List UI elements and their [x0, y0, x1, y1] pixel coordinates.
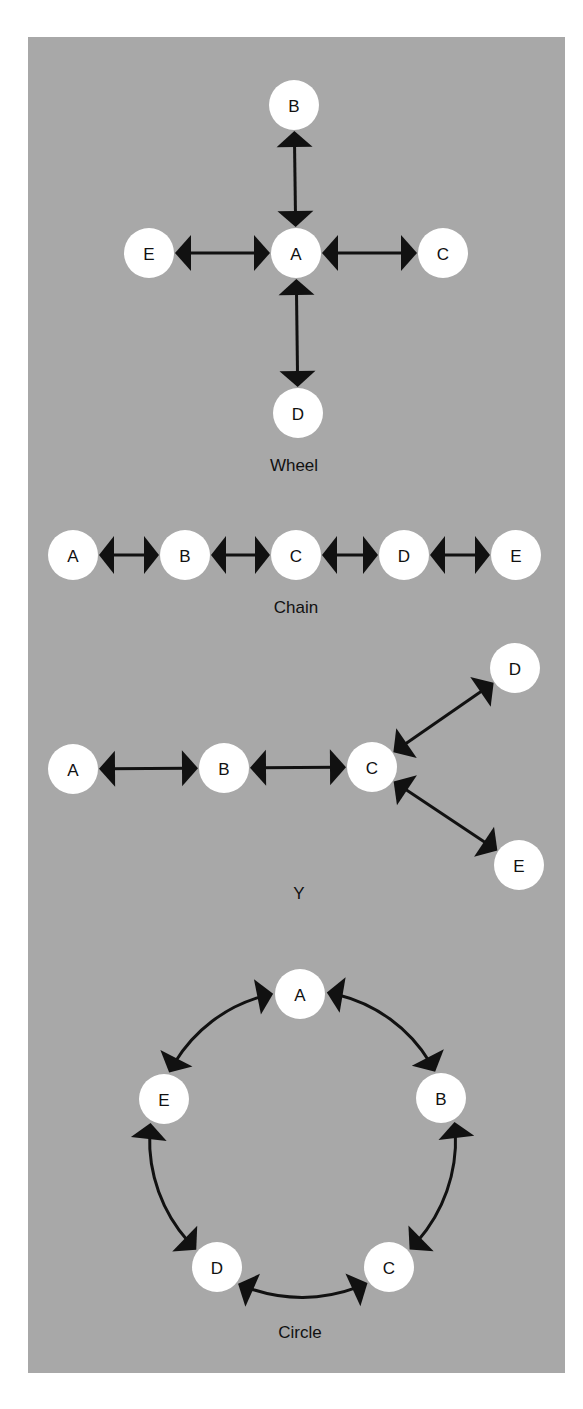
node-label: E	[510, 547, 521, 566]
edge-c-d	[322, 536, 378, 574]
arrowhead-icon	[474, 827, 497, 857]
arrowhead-icon	[322, 536, 337, 574]
node-a: A	[271, 228, 321, 278]
arrowhead-icon	[131, 1123, 167, 1141]
arrowhead-icon	[175, 235, 191, 271]
edge-a-d	[279, 279, 316, 387]
node-label: A	[294, 986, 306, 1005]
circle-network: ABCDE Circle	[131, 969, 474, 1342]
edge-a-b	[327, 977, 444, 1071]
arrowhead-icon	[439, 1122, 475, 1140]
node-b: B	[160, 530, 210, 580]
edge-arc	[417, 1133, 455, 1241]
edge-b-c	[408, 1122, 474, 1251]
edge-a-e	[175, 235, 270, 271]
arrowhead-icon	[430, 536, 445, 574]
arrowhead-icon	[211, 536, 226, 574]
arrowhead-icon	[277, 131, 313, 147]
arrowhead-icon	[99, 536, 114, 574]
edge-c-d	[238, 1273, 367, 1306]
node-label: D	[292, 405, 304, 424]
arrowhead-icon	[475, 536, 490, 574]
edge-arc	[175, 996, 263, 1062]
node-label: B	[435, 1090, 446, 1109]
communication-networks-diagram: ABCDE Wheel ABCDE Chain ABCDE Y ABCDE Ci…	[0, 0, 583, 1409]
edge-arc	[150, 1134, 189, 1241]
node-label: B	[179, 547, 190, 566]
edge-a-c	[322, 235, 417, 271]
edge-e-a	[160, 979, 273, 1072]
edge-a-b	[277, 131, 314, 227]
y-caption: Y	[293, 884, 304, 903]
node-c: C	[347, 742, 397, 792]
arrowhead-icon	[160, 1050, 192, 1072]
arrowhead-icon	[279, 371, 315, 387]
edge-b-c	[211, 536, 270, 574]
node-label: C	[437, 245, 449, 264]
node-a: A	[275, 969, 325, 1019]
edge-d-e	[430, 536, 490, 574]
node-label: C	[290, 547, 302, 566]
node-label: A	[290, 245, 302, 264]
node-label: E	[158, 1091, 169, 1110]
node-label: A	[67, 761, 79, 780]
arrowhead-icon	[279, 279, 315, 295]
y-network: ABCDE Y	[48, 643, 544, 903]
edge-line	[260, 767, 337, 768]
arrowhead-icon	[250, 750, 266, 786]
node-label: D	[509, 660, 521, 679]
arrowhead-icon	[412, 1049, 444, 1071]
node-c: C	[364, 1242, 414, 1292]
edge-line	[401, 688, 485, 746]
edge-c-d	[393, 677, 493, 758]
wheel-network: ABCDE Wheel	[124, 80, 468, 475]
arrowhead-icon	[322, 235, 338, 271]
node-label: C	[366, 759, 378, 778]
node-label: B	[288, 97, 299, 116]
node-d: D	[192, 1242, 242, 1292]
edge-line	[294, 141, 295, 218]
node-d: D	[379, 530, 429, 580]
node-c: C	[418, 228, 468, 278]
chain-network: ABCDE Chain	[48, 530, 541, 617]
edge-c-e	[394, 775, 498, 856]
arrowhead-icon	[255, 536, 270, 574]
node-e: E	[124, 228, 174, 278]
arrowhead-icon	[363, 536, 378, 574]
node-a: A	[48, 744, 98, 794]
edge-a-b	[99, 750, 198, 786]
arrowhead-icon	[277, 211, 313, 227]
wheel-caption: Wheel	[270, 456, 318, 475]
edge-line	[109, 768, 189, 769]
edge-line	[296, 289, 297, 378]
arrowhead-icon	[394, 775, 417, 805]
edge-line	[402, 787, 490, 846]
chain-caption: Chain	[274, 598, 318, 617]
node-e: E	[491, 530, 541, 580]
arrowhead-icon	[254, 235, 270, 271]
arrowhead-icon	[393, 728, 416, 758]
arrowhead-icon	[144, 536, 159, 574]
node-b: B	[269, 80, 319, 130]
arrowhead-icon	[99, 751, 115, 787]
arrowhead-icon	[401, 235, 417, 271]
node-d: D	[273, 388, 323, 438]
node-label: B	[218, 760, 229, 779]
arrowhead-icon	[182, 750, 198, 786]
edge-d-e	[131, 1123, 197, 1252]
arrowhead-icon	[330, 749, 346, 785]
arrowhead-icon	[470, 677, 493, 707]
edge-arc	[338, 995, 430, 1062]
circle-caption: Circle	[278, 1323, 321, 1342]
node-label: E	[513, 857, 524, 876]
node-b: B	[416, 1073, 466, 1123]
node-d: D	[490, 643, 540, 693]
edge-b-c	[250, 749, 346, 785]
node-c: C	[271, 530, 321, 580]
node-e: E	[139, 1074, 189, 1124]
node-a: A	[48, 530, 98, 580]
node-b: B	[199, 743, 249, 793]
edge-a-b	[99, 536, 159, 574]
node-label: D	[211, 1259, 223, 1278]
node-label: E	[143, 245, 154, 264]
